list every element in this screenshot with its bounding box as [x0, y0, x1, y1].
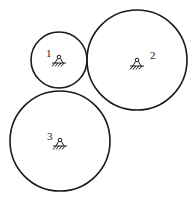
wheel-2: 2	[87, 10, 187, 110]
wheel-1: 1	[31, 32, 87, 88]
wheel-label: 3	[47, 130, 53, 142]
wheel-3: 3	[10, 91, 110, 191]
gear-train-diagram: 123	[0, 0, 193, 199]
wheel-circle	[31, 32, 87, 88]
wheels-layer: 123	[10, 10, 187, 191]
wheel-label: 2	[150, 49, 156, 61]
fixed-pivot-icon	[53, 138, 67, 149]
wheel-label: 1	[46, 47, 52, 59]
fixed-pivot-icon	[52, 55, 66, 66]
fixed-pivot-icon	[130, 58, 144, 69]
